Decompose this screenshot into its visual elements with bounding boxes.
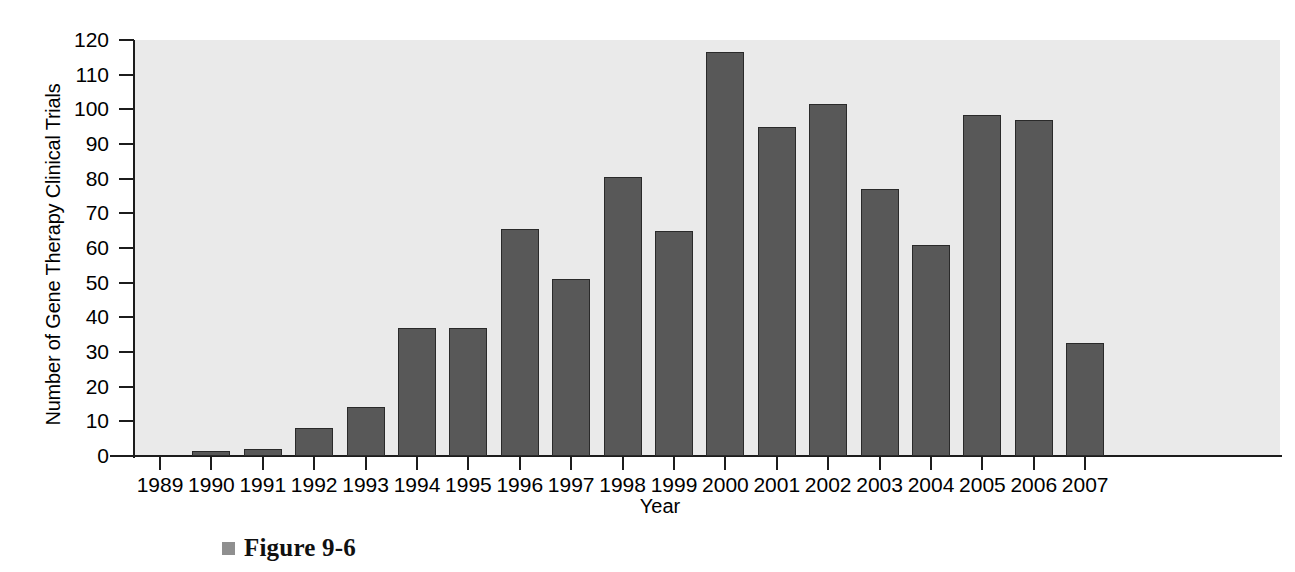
x-axis-title: Year: [130, 495, 1190, 518]
x-axis-tick: [159, 456, 161, 470]
x-axis-tick: [622, 456, 624, 470]
y-axis-tick: [119, 455, 134, 457]
bar: [501, 229, 539, 456]
bar-chart: 0102030405060708090100110120 19891990199…: [0, 0, 1295, 520]
y-axis-tick: [119, 74, 134, 76]
x-axis-tick: [827, 456, 829, 470]
square-bullet-icon: [222, 542, 235, 555]
x-axis-tick: [210, 456, 212, 470]
x-axis-tick: [930, 456, 932, 470]
bar: [706, 52, 744, 456]
bar: [449, 328, 487, 456]
figure-container: 0102030405060708090100110120 19891990199…: [0, 0, 1295, 572]
bar: [861, 189, 899, 456]
x-axis-line: [110, 455, 1282, 457]
x-axis-tick: [879, 456, 881, 470]
bar: [398, 328, 436, 456]
y-axis-tick: [119, 420, 134, 422]
x-axis-tick: [981, 456, 983, 470]
figure-caption: Figure 9-6: [222, 534, 356, 562]
bar: [655, 231, 693, 456]
y-axis-tick: [119, 316, 134, 318]
y-axis-tick: [119, 178, 134, 180]
x-axis-tick: [313, 456, 315, 470]
bar: [1015, 120, 1053, 456]
y-axis-title: Number of Gene Therapy Clinical Trials: [42, 35, 65, 475]
y-axis-tick: [119, 247, 134, 249]
bar: [604, 177, 642, 456]
bar: [1066, 343, 1104, 456]
bar: [244, 449, 282, 456]
x-axis-tick: [1033, 456, 1035, 470]
y-axis-tick: [119, 39, 134, 41]
bar: [963, 115, 1001, 456]
x-axis-tick: [1084, 456, 1086, 470]
y-axis-tick: [119, 386, 134, 388]
figure-caption-text: Figure 9-6: [244, 534, 356, 562]
y-axis-tick: [119, 212, 134, 214]
x-axis-tick: [776, 456, 778, 470]
bar: [809, 104, 847, 456]
x-axis-tick: [570, 456, 572, 470]
y-axis-tick: [119, 282, 134, 284]
x-axis-tick: [262, 456, 264, 470]
bar: [758, 127, 796, 456]
x-axis-tick: [365, 456, 367, 470]
y-axis-tick: [119, 143, 134, 145]
y-axis-tick: [119, 108, 134, 110]
x-axis-tick-label: 2007: [1045, 474, 1125, 495]
x-axis-tick: [673, 456, 675, 470]
x-axis-tick: [416, 456, 418, 470]
bar: [912, 245, 950, 456]
x-axis-tick: [724, 456, 726, 470]
x-axis-tick: [467, 456, 469, 470]
x-axis-tick: [519, 456, 521, 470]
y-axis-line: [133, 40, 135, 458]
bar: [552, 279, 590, 456]
bar: [347, 407, 385, 456]
y-axis-tick: [119, 351, 134, 353]
bar: [295, 428, 333, 456]
